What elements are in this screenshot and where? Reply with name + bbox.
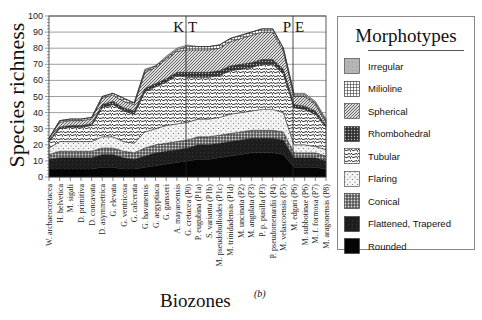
- x-tick-label: M. trinidadensis (P1d): [226, 184, 235, 256]
- legend-label: Conical: [368, 196, 400, 207]
- x-tick-label: M. subbotinae (P6): [301, 184, 310, 246]
- legend-swatch-icon: [344, 238, 360, 254]
- legend-item-rhombohedral: Rhombohedral: [338, 123, 474, 146]
- y-tick-label: 50: [33, 92, 43, 102]
- x-tick-label: D. primitiva: [77, 184, 86, 224]
- legend-item-flaring: Flaring: [338, 168, 474, 191]
- y-tick-label: 0: [38, 172, 43, 182]
- x-tick-label: G. calcerata: [130, 184, 139, 223]
- x-tick-label: H. helvetica: [56, 184, 65, 223]
- x-tick-label: D. concavata: [88, 184, 97, 226]
- legend-label: Rhombohedral: [368, 128, 430, 139]
- legend-title: Morphotypes: [338, 25, 474, 47]
- boundary-label: K: [173, 19, 184, 35]
- x-tick-label: W. archaeocretacea: [45, 184, 54, 246]
- legend-label: Tubular: [368, 151, 400, 162]
- legend-label: Irregular: [368, 61, 403, 72]
- x-tick-label: G. elevata: [109, 184, 118, 217]
- legend: Morphotypes IrregularMiliolineSphericalR…: [337, 16, 475, 250]
- x-tick-label: M. edgari (P6): [290, 184, 299, 231]
- y-tick-label: 60: [33, 75, 43, 85]
- legend-swatch-icon: [344, 148, 360, 164]
- legend-swatch-icon: [344, 193, 360, 209]
- y-axis-title-wrap: Species richness: [2, 20, 32, 170]
- x-tick-label: G. ventricosa: [120, 184, 129, 227]
- legend-item-tubular: Tubular: [338, 145, 474, 168]
- x-tick-label: P. p. pusilla (P3): [258, 184, 267, 237]
- x-tick-label: G. cretacea (P0): [184, 184, 193, 236]
- legend-label: Milioline: [368, 83, 402, 94]
- x-tick-label: S. varianta (P1b): [205, 184, 214, 238]
- x-tick-label: P. eugubina (P1a): [194, 184, 203, 241]
- y-axis-title: Species richness: [4, 23, 30, 168]
- legend-swatch-icon: [344, 126, 360, 142]
- x-tick-label: M. pseudobulloides (P1c): [215, 184, 224, 267]
- boundary-label: E: [295, 19, 304, 35]
- legend-item-milioline: Milioline: [338, 78, 474, 101]
- boundary-label: P: [283, 19, 291, 35]
- legend-divider: [368, 50, 464, 51]
- legend-item-spherical: Spherical: [338, 100, 474, 123]
- legend-swatch-icon: [344, 58, 360, 74]
- x-tick-label: D. asymmetrica: [98, 184, 107, 235]
- area-layers: [49, 29, 326, 177]
- y-tick-label: 40: [33, 108, 43, 118]
- y-tick-label: 30: [33, 124, 43, 134]
- legend-label: Flaring: [368, 173, 397, 184]
- legend-item-irregular: Irregular: [338, 55, 474, 78]
- legend-label: Spherical: [368, 106, 408, 117]
- legend-swatch-icon: [344, 216, 360, 232]
- x-tick-label: G. havanensis: [141, 184, 150, 229]
- legend-swatch-icon: [344, 81, 360, 97]
- legend-swatch-icon: [344, 103, 360, 119]
- y-tick-label: 90: [33, 27, 43, 37]
- x-tick-label: A. mayaroensis: [173, 184, 182, 234]
- y-tick-label: 10: [33, 156, 43, 166]
- x-tick-label: M. aragonensis (P8): [322, 184, 331, 249]
- legend-item-rounded: Rounded: [338, 235, 474, 258]
- legend-item-flattened: Flattened, Trapered: [338, 213, 474, 236]
- x-axis-title: Biozones: [160, 290, 231, 312]
- x-tick-label: G. gansseri: [162, 183, 171, 220]
- x-tick-label: M. f. formosa (P7): [311, 184, 320, 244]
- legend-label: Flattened, Trapered: [368, 218, 451, 229]
- x-tick-label: M. angulata (P3): [247, 184, 256, 238]
- y-tick-label: 80: [33, 43, 43, 53]
- legend-swatch-icon: [344, 171, 360, 187]
- panel-label: (b): [254, 288, 266, 299]
- legend-item-conical: Conical: [338, 190, 474, 213]
- legend-label: Rounded: [368, 241, 407, 252]
- y-tick-label: 70: [33, 59, 43, 69]
- x-tick-label: M. uncinata (P2): [237, 184, 246, 238]
- boundary-label: T: [188, 19, 197, 35]
- y-tick-label: 20: [33, 140, 43, 150]
- x-tick-label: P. pseudomenardii (P4): [269, 184, 278, 259]
- x-tick-label: M. velascoensis (P5): [279, 184, 288, 251]
- x-tick-label: M. sigali: [66, 183, 75, 212]
- x-tick-label: G. aegyptiaca: [152, 184, 161, 228]
